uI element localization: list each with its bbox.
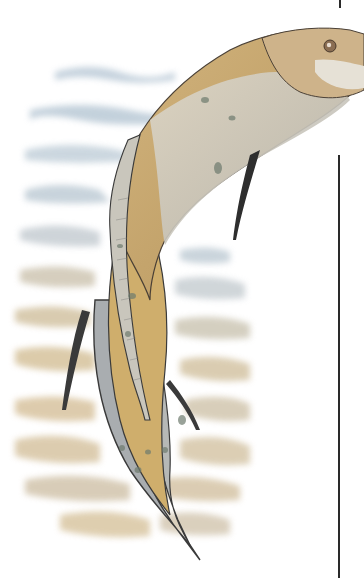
fish-illustration <box>0 0 364 578</box>
vertical-rule <box>338 155 340 578</box>
illustration <box>0 0 364 578</box>
vertical-rule-top <box>339 0 341 8</box>
